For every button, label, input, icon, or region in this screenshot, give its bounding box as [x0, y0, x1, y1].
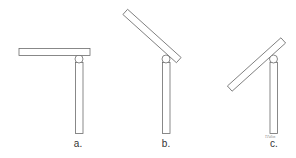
label-b: b. [162, 138, 170, 149]
lever-diagram [0, 0, 296, 158]
panel-c [227, 38, 285, 134]
panel-a [19, 49, 90, 134]
post-c [270, 63, 278, 134]
label-c: c. [270, 138, 278, 149]
label-a: a. [74, 138, 82, 149]
pivot-ball-a [75, 55, 83, 63]
post-b [163, 63, 171, 134]
panel-b [123, 9, 181, 133]
post-a [76, 63, 84, 134]
artist-signature: T.Fallon [265, 135, 275, 139]
beam-a [19, 49, 90, 56]
beam-b [123, 9, 181, 62]
